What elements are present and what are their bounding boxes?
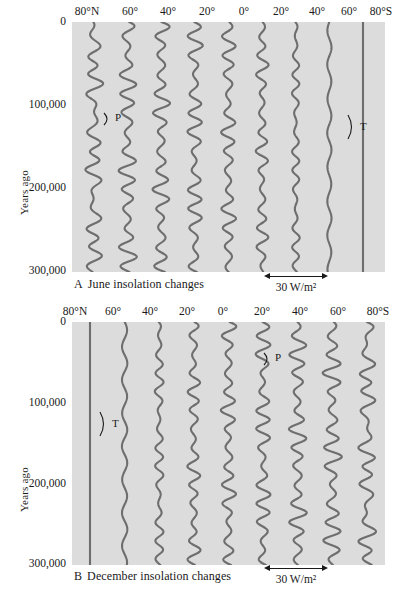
- scale-bar-label-december: 30 W/m²: [264, 573, 328, 586]
- y-tick-december-1: 100,000: [2, 397, 66, 409]
- plot-area-december: [72, 322, 385, 565]
- insolation-traces-december: [72, 322, 385, 565]
- annotation-tilt-june-label: T: [360, 120, 367, 132]
- x-tick-june-8: 80°S: [362, 6, 400, 18]
- y-tick-june-2: 200,000: [2, 182, 66, 194]
- x-tick-december-2: 40°: [131, 306, 169, 318]
- x-tick-june-4: 0°: [228, 6, 260, 18]
- panel-caption-june: June insolation changes: [88, 277, 204, 291]
- y-tick-december-2: 200,000: [2, 478, 66, 490]
- panel-letter-december: B: [74, 569, 82, 583]
- x-tick-december-3: 20°: [168, 306, 206, 318]
- x-tick-june-5: 20°: [261, 6, 301, 18]
- scale-bar-label-june: 30 W/m²: [264, 281, 328, 294]
- annotation-precession-december-label: P: [275, 351, 281, 363]
- arrow-head-right-icon: [322, 565, 328, 571]
- x-tick-december-6: 40°: [281, 306, 319, 318]
- scale-bar-arrow-june: [264, 272, 328, 281]
- panel-letter-june: A: [74, 277, 83, 291]
- x-tick-june-0: 80°N: [64, 6, 110, 18]
- x-tick-december-5: 20°: [243, 306, 281, 318]
- arrow-head-right-icon: [322, 273, 328, 279]
- caption-december: BDecember insolation changes: [74, 569, 231, 584]
- x-tick-june-2: 40°: [148, 6, 188, 18]
- x-tick-december-1: 60°: [94, 306, 132, 318]
- y-tick-june-1: 100,000: [2, 99, 66, 111]
- y-tick-december-0: 0: [2, 316, 66, 328]
- x-tick-december-4: 0°: [206, 306, 240, 318]
- insolation-traces-june: [72, 22, 385, 272]
- panel-december: Years ago 0 100,000 200,000 300,000 80°N…: [0, 300, 400, 589]
- scale-bar-june: 30 W/m²: [264, 272, 328, 294]
- y-axis-title-december: Years ago: [18, 467, 30, 512]
- x-tick-june-3: 20°: [187, 6, 227, 18]
- y-tick-june-0: 0: [2, 16, 66, 28]
- caption-june: AJune insolation changes: [74, 277, 204, 292]
- x-tick-december-7: 60°: [319, 306, 357, 318]
- x-tick-december-0: 80°N: [52, 306, 98, 318]
- panel-june: Years ago 0 100,000 200,000 300,000 80°N…: [0, 0, 400, 300]
- y-tick-december-3: 300,000: [2, 558, 66, 570]
- annotation-precession-june-label: P: [115, 111, 121, 123]
- x-tick-june-1: 60°: [110, 6, 150, 18]
- x-tick-december-8: 80°S: [357, 306, 399, 318]
- y-tick-june-3: 300,000: [2, 265, 66, 277]
- arrow-line: [268, 276, 324, 277]
- plot-area-june: [72, 22, 385, 272]
- scale-bar-arrow-december: [264, 564, 328, 573]
- annotation-tilt-december-label: T: [112, 417, 119, 429]
- scale-bar-december: 30 W/m²: [264, 564, 328, 586]
- panel-caption-december: December insolation changes: [87, 569, 231, 583]
- arrow-line: [268, 568, 324, 569]
